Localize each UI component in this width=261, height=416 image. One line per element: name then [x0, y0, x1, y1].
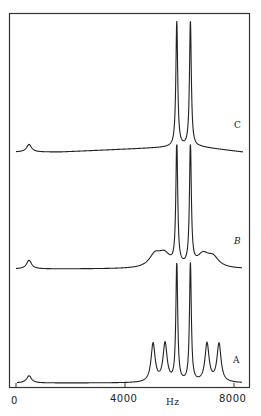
trace-b: [16, 145, 242, 269]
x-tick-label-0: 0: [11, 395, 18, 406]
x-tick-label-8000: 8000: [219, 393, 246, 404]
x-axis-label: Hz: [166, 397, 180, 407]
trace-label-a: A: [233, 355, 240, 365]
trace-a: [17, 263, 242, 383]
plot-frame: [10, 14, 250, 388]
trace-c: [16, 21, 243, 152]
trace-label-c: C: [234, 120, 241, 130]
trace-label-b: B: [234, 236, 241, 246]
x-tick-label-4000: 4000: [110, 393, 137, 404]
spectrum-plot: [0, 0, 261, 416]
